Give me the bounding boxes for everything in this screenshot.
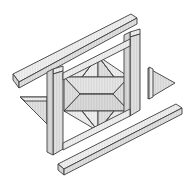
isometric-wireframe-figure <box>0 0 188 183</box>
left-vertical-bar-side-face <box>47 69 53 155</box>
right-triangle-inner-band <box>149 67 153 99</box>
right-vertical-bar-front-face <box>130 34 140 116</box>
figure-root <box>0 0 188 183</box>
left-triangle-edge-band <box>20 97 47 101</box>
left-vertical-bar <box>47 66 63 155</box>
left-vertical-bar-front-face <box>53 71 63 155</box>
